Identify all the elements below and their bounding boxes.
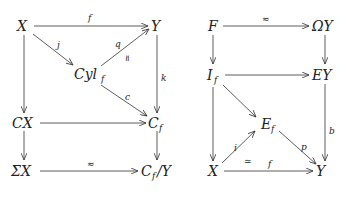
node-C-subscript: f [158,123,164,133]
edge-Cyl-C [101,85,147,116]
node-X: X [207,163,219,179]
node-CY-tail: /Y [155,163,173,179]
label-k: k [161,73,166,83]
label-homotopy-eq: ≃ [244,156,252,166]
label-p: p [301,142,307,152]
label-homotopy-eq: ≃ [122,54,132,62]
node-CY-text: C [141,163,152,179]
edge-E-Y [279,131,316,164]
node-I-f: I f [206,67,219,85]
label-q: q [115,39,121,49]
label-j: j [55,40,60,50]
node-E-subscript: f [270,124,276,134]
node-Cyl-subscript: f [100,74,106,84]
label-b: b [329,126,335,136]
label-i: i [234,143,237,153]
node-Omega-Y: ΩY [311,18,335,34]
node-C-text: C [148,115,159,131]
node-C-f-over-Y: C f /Y [141,163,173,181]
node-E-f: E f [260,116,276,134]
node-EY: EY [311,67,333,83]
node-E-text: E [260,116,271,132]
node-F: F [207,18,219,34]
cofiber-diagram: f j q ≃ k c ≈ X Y Cyl f CX C f ΣX C f /Y [10,13,173,181]
node-I-text: I [206,67,213,83]
node-CX: CX [12,115,34,131]
node-Y: Y [151,18,162,34]
label-f: f [87,13,93,23]
edge-X-Cyl [33,34,73,65]
label-c: c [125,92,130,102]
label-f: f [267,159,273,169]
label-approx: ≈ [87,159,95,169]
node-I-subscript: f [213,75,219,85]
node-Cyl-text: Cyl [74,66,97,82]
edge-I-E [223,85,256,117]
node-Sigma-X: ΣX [10,163,32,179]
node-C-f: C f [148,115,164,133]
diagram-canvas: f j q ≃ k c ≈ X Y Cyl f CX C f ΣX C f /Y [0,0,344,198]
node-Y: Y [316,163,327,179]
node-X: X [16,18,28,34]
node-Cyl-f: Cyl f [74,66,106,84]
label-approx: ≈ [262,14,270,24]
fiber-diagram: ≈ b i ≃ p f F ΩY I f EY E f X Y [206,14,335,179]
